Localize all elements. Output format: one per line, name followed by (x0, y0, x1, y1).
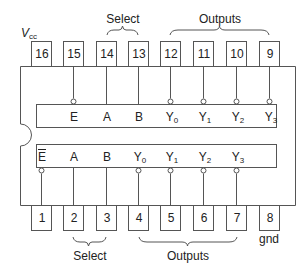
bottom-select-label: Select (73, 250, 106, 262)
lower-signal-a: A (70, 151, 78, 163)
pin-5: 5 (168, 212, 175, 224)
signal-sub: 1 (207, 116, 211, 125)
upper-signal-y3: Y3 (265, 111, 277, 127)
signal-sub: 3 (240, 156, 244, 165)
pin-8: 8 (267, 212, 274, 224)
upper-signal-y2: Y2 (232, 111, 244, 127)
signal-main: Y (199, 150, 207, 164)
pin-12: 12 (164, 48, 177, 60)
signal-main: Y (232, 150, 240, 164)
vcc-label: Vcc (21, 26, 37, 41)
inversion-bubble (168, 99, 173, 104)
upper-signal-y0: Y0 (166, 111, 178, 127)
inversion-bubble (234, 168, 239, 173)
signal-main: A (103, 110, 111, 124)
signal-main: Y (265, 110, 273, 124)
signal-main: Y (134, 150, 142, 164)
pin-13: 13 (132, 48, 145, 60)
top-outputs-label: Outputs (199, 13, 241, 25)
lower-signal-y1: Y1 (166, 151, 178, 167)
lower-signal-b: B (103, 151, 111, 163)
inversion-bubble (168, 168, 173, 173)
pin-7: 7 (234, 212, 241, 224)
top-select-label: Select (106, 13, 139, 25)
upper-signal-y1: Y1 (199, 111, 211, 127)
vcc-main: V (21, 26, 29, 40)
signal-sub: 0 (142, 156, 146, 165)
lower-signal-enable-bar: E (38, 151, 46, 163)
inversion-bubble (267, 99, 272, 104)
signal-main: E (38, 150, 46, 164)
pin-6: 6 (201, 212, 208, 224)
top-select-brace (107, 26, 138, 35)
bottom-outputs-brace (139, 237, 237, 246)
upper-signal-a: A (103, 111, 111, 123)
signal-sub: 0 (174, 116, 178, 125)
lower-signal-y0: Y0 (134, 151, 146, 167)
signal-main: Y (232, 110, 240, 124)
signal-sub: 2 (207, 156, 211, 165)
inversion-bubble (201, 99, 206, 104)
inversion-bubble (39, 168, 44, 173)
signal-sub: 1 (174, 156, 178, 165)
pin-2: 2 (71, 212, 78, 224)
signal-main: B (135, 110, 143, 124)
signal-main: Y (166, 150, 174, 164)
pin-1: 1 (39, 212, 46, 224)
pin-14: 14 (100, 48, 113, 60)
inversion-bubble (71, 99, 76, 104)
pin-3: 3 (104, 212, 111, 224)
inversion-bubble (201, 168, 206, 173)
bottom-outputs-label: Outputs (167, 250, 209, 262)
pin-9: 9 (267, 48, 274, 60)
upper-signal-enable: E (70, 111, 78, 123)
signal-sub: 3 (273, 116, 277, 125)
signal-main: Y (166, 110, 174, 124)
lower-signal-y2: Y2 (199, 151, 211, 167)
chip-body (21, 67, 296, 206)
vcc-sub: cc (29, 32, 37, 41)
upper-signal-b: B (135, 111, 143, 123)
bottom-select-brace (73, 237, 106, 246)
inversion-bubble (234, 99, 239, 104)
pin-16: 16 (35, 48, 48, 60)
signal-main: A (70, 150, 78, 164)
ic-outline-drawing (0, 0, 307, 269)
pin-10: 10 (230, 48, 243, 60)
pin-15: 15 (67, 48, 80, 60)
signal-main: E (70, 110, 78, 124)
pin-11: 11 (198, 48, 210, 60)
top-outputs-brace (170, 26, 269, 35)
pin-4: 4 (136, 212, 143, 224)
lower-signal-y3: Y3 (232, 151, 244, 167)
signal-main: Y (199, 110, 207, 124)
signal-sub: 2 (240, 116, 244, 125)
inversion-bubble (136, 168, 141, 173)
signal-main: B (103, 150, 111, 164)
gnd-label: gnd (259, 233, 279, 245)
